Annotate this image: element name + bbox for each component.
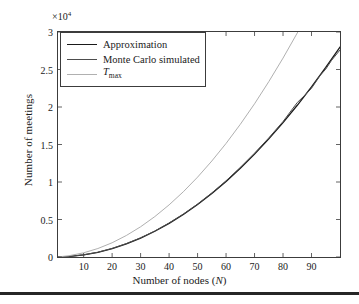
legend-item-approximation: Approximation [65,37,201,52]
legend-swatch-tmax [67,74,97,75]
legend-label-approximation: Approximation [103,39,167,51]
y-axis-tick-labels: 00.511.522.53 [20,31,53,258]
legend-swatch-monte-carlo [67,59,97,60]
x-tick-label: 50 [183,261,213,272]
bottom-divider [0,292,359,295]
x-tick-label: 60 [211,261,241,272]
y-tick-label: 2 [23,102,53,113]
x-axis-title-variable: N [215,274,222,286]
y-tick-label: 0.5 [23,214,53,225]
x-tick-label: 30 [126,261,156,272]
x-axis-title-text: Number of nodes ( [133,274,216,286]
y-tick-label: 1 [23,177,53,188]
y-tick-label: 1.5 [23,139,53,150]
y-axis-exponent-label: ×104 [52,10,71,22]
x-axis-title: Number of nodes (N) [0,274,359,286]
x-tick-label: 70 [240,261,270,272]
x-tick-label: 10 [69,261,99,272]
x-tick-label: 20 [97,261,127,272]
x-tick-label: 40 [154,261,184,272]
exponent-base: ×10 [52,11,68,22]
x-axis-title-tail: ) [223,274,227,286]
exponent-power: 4 [68,10,72,18]
x-axis-tick-labels: 102030405060708090 [57,261,341,275]
y-tick-label: 3 [23,27,53,38]
y-tick-label: 0 [23,252,53,263]
tmax-subscript: max [109,72,122,81]
chart-legend: Approximation Monte Carlo simulated Tmax [60,32,206,87]
chart-figure: Number of meetings ×104 00.511.522.53 10… [0,0,359,304]
legend-item-tmax: Tmax [65,67,201,82]
x-tick-label: 80 [268,261,298,272]
y-tick-label: 2.5 [23,64,53,75]
x-tick-label: 90 [297,261,327,272]
legend-item-monte-carlo: Monte Carlo simulated [65,52,201,67]
legend-label-monte-carlo: Monte Carlo simulated [103,54,200,66]
legend-label-tmax: Tmax [103,66,122,82]
legend-swatch-approximation [67,44,97,46]
